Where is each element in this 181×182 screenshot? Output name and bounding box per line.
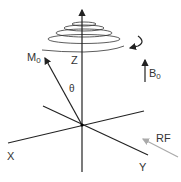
rf-label: RF: [156, 133, 171, 144]
m0-label: M0: [27, 52, 41, 65]
x-axis: [8, 111, 144, 143]
x-axis-label: X: [7, 151, 14, 162]
rotation-arrow-icon: [130, 36, 142, 48]
y-axis-label: Y: [139, 162, 146, 173]
b0-label: B0: [149, 68, 161, 81]
z-axis-label: Z: [71, 55, 78, 66]
diagram-canvas: [0, 0, 181, 182]
origin: [80, 123, 83, 126]
nmr-precession-diagram: M0 Z θ B0 X Y RF: [0, 0, 181, 182]
theta-label: θ: [69, 84, 75, 94]
precession-spiral: [42, 22, 124, 52]
